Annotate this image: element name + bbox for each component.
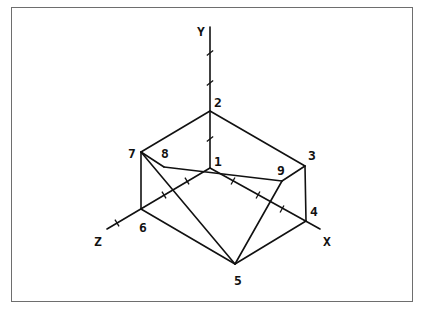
point-labels: YXZ123456789 xyxy=(94,24,331,288)
edge-3-4 xyxy=(305,166,306,221)
point-label-2: 2 xyxy=(214,95,222,110)
edge-6-5 xyxy=(141,209,235,264)
edge-3-9 xyxy=(282,166,305,181)
edge-2-7 xyxy=(141,111,210,152)
x-axis xyxy=(210,168,320,229)
wireframe-edges xyxy=(141,111,306,264)
edge-4-5 xyxy=(235,221,306,264)
point-label-5: 5 xyxy=(234,273,242,288)
axis-label-x: X xyxy=(323,234,331,249)
edge-8-9 xyxy=(164,167,282,181)
edge-2-3 xyxy=(210,111,305,166)
axis-label-z: Z xyxy=(94,234,102,249)
point-label-3: 3 xyxy=(308,148,316,163)
point-label-1: 1 xyxy=(214,154,222,169)
point-label-8: 8 xyxy=(161,146,169,161)
wireframe-diagram: YXZ123456789 xyxy=(0,0,422,309)
point-label-4: 4 xyxy=(310,204,318,219)
point-label-9: 9 xyxy=(277,163,285,178)
point-label-6: 6 xyxy=(139,220,147,235)
axis-label-y: Y xyxy=(197,24,205,39)
coordinate-axes xyxy=(107,27,320,229)
point-label-7: 7 xyxy=(128,146,136,161)
